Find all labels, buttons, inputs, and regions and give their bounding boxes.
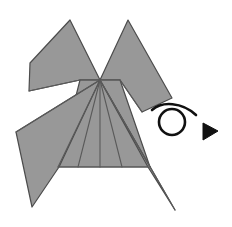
origami-illustration xyxy=(0,0,232,227)
origami-diagram-figure xyxy=(0,0,232,227)
